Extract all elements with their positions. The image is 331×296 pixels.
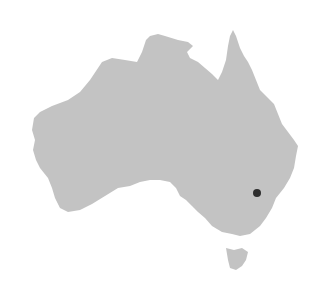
- location-marker[interactable]: [253, 189, 261, 197]
- mainland-australia: [32, 30, 298, 236]
- tasmania: [226, 248, 248, 270]
- australia-map: [0, 0, 331, 296]
